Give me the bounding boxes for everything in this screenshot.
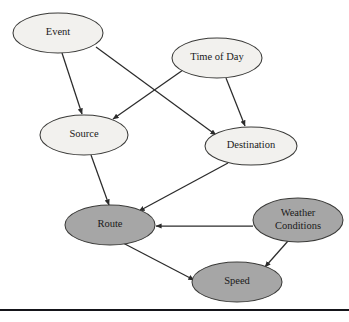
node-label-weather_conditions: Weather — [281, 207, 316, 218]
node-label-speed: Speed — [224, 275, 250, 286]
node-source[interactable]: Source — [40, 115, 128, 155]
node-event[interactable]: Event — [13, 13, 103, 53]
node-label-source: Source — [69, 128, 98, 139]
diagram-canvas: EventTime of DaySourceDestinationRouteWe… — [0, 0, 349, 322]
edge-weather-speed — [265, 241, 288, 267]
node-label-route: Route — [97, 218, 122, 229]
node-destination[interactable]: Destination — [205, 127, 297, 165]
node-route[interactable]: Route — [65, 205, 155, 245]
node-time_of_day[interactable]: Time of Day — [172, 38, 262, 78]
edge-source-route — [91, 155, 109, 205]
node-speed[interactable]: Speed — [192, 262, 282, 302]
edge-destination-route — [139, 163, 228, 211]
node-label-event: Event — [46, 26, 71, 37]
edge-event-source — [62, 53, 82, 114]
causal-diagram-figure: EventTime of DaySourceDestinationRouteWe… — [0, 0, 349, 322]
edge-timeofday-destination — [226, 78, 245, 126]
node-label-destination: Destination — [227, 139, 276, 150]
edge-timeofday-source — [113, 70, 183, 119]
node-label-time_of_day: Time of Day — [190, 51, 244, 62]
edge-route-speed — [123, 243, 194, 280]
node-weather_conditions[interactable]: WeatherConditions — [253, 198, 343, 242]
node-label-weather_conditions: Conditions — [275, 220, 321, 231]
